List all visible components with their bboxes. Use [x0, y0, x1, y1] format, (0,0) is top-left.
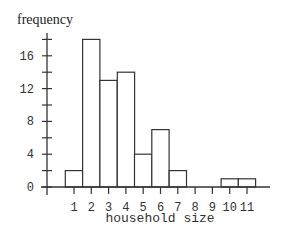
x-tick-label: 10 — [222, 201, 236, 215]
histogram-chart: frequency 04812161234567891011 household… — [0, 0, 284, 240]
histogram-bar — [65, 171, 82, 187]
y-tick-label: 16 — [20, 50, 34, 64]
histogram-bar — [238, 179, 255, 187]
y-tick-label: 4 — [27, 148, 34, 162]
y-tick-label: 0 — [27, 181, 34, 195]
histogram-bar — [135, 154, 152, 187]
x-axis-label: household size — [105, 211, 214, 226]
histogram-bar — [169, 171, 186, 187]
x-tick-label: 1 — [70, 201, 77, 215]
y-tick-label: 8 — [27, 115, 34, 129]
histogram-bar — [221, 179, 238, 187]
histogram-bar — [152, 130, 169, 187]
x-tick-label: 2 — [88, 201, 95, 215]
x-tick-label: 11 — [240, 201, 254, 215]
histogram-bars — [65, 39, 255, 187]
y-axis-label: frequency — [17, 12, 73, 27]
axes: 04812161234567891011 — [20, 33, 270, 215]
histogram-bar — [117, 72, 134, 187]
histogram-bar — [83, 39, 100, 187]
y-tick-label: 12 — [20, 83, 34, 97]
histogram-bar — [100, 80, 117, 187]
